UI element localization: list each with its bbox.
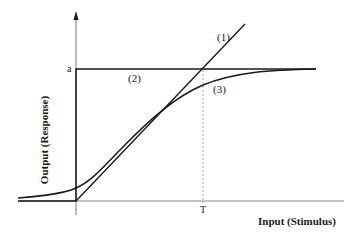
- curve-2-tag: (2): [128, 72, 141, 85]
- y-marker-a: a: [67, 63, 72, 74]
- response-diagram: Output (Response) Input (Stimulus) a T (…: [0, 0, 359, 235]
- curve-1-tag: (1): [217, 31, 230, 44]
- curve-2-step: [18, 69, 316, 201]
- y-axis-label: Output (Response): [38, 96, 51, 185]
- x-axis-label: Input (Stimulus): [258, 215, 336, 228]
- curve-3-saturating: [18, 69, 316, 198]
- y-axis-arrow-icon: [74, 11, 79, 20]
- x-marker-t: T: [200, 204, 206, 215]
- curve-3-tag: (3): [213, 83, 226, 96]
